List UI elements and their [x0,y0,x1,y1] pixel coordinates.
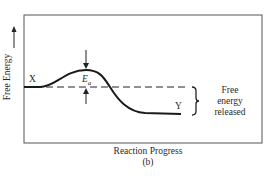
right-brace-icon [192,87,199,115]
down-arrow-icon [83,63,89,69]
brace-label-line-1: Free [205,85,255,96]
y-axis-arrow-icon [12,26,17,48]
energy-curve [24,70,181,114]
brace-label-line-2: energy [205,96,255,107]
ea-subscript: a [88,79,92,87]
x-axis-label: Reaction Progress [93,147,203,157]
activation-energy-label: Ea [82,75,91,87]
brace-label-line-3: released [205,107,255,118]
figure-caption: (b) [128,158,168,168]
y-axis-label: Free Energy [2,54,12,101]
up-arrow-icon [83,88,89,94]
product-label-y: Y [175,102,182,112]
reactant-label-x: X [29,75,36,85]
free-energy-released-label: Free energy released [205,85,255,118]
